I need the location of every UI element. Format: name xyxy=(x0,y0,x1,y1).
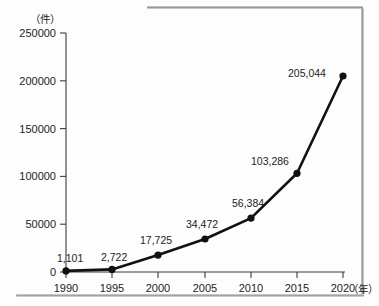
x-tick-label: 2010 xyxy=(227,283,275,294)
x-tick-label: 1990 xyxy=(42,283,90,294)
data-point-label: 34,472 xyxy=(186,219,218,230)
y-tick-label: 150000 xyxy=(6,124,56,135)
data-point-label: 17,725 xyxy=(140,235,172,246)
x-tick-label: 2005 xyxy=(181,283,229,294)
x-axis-unit-label: （年） xyxy=(348,284,378,295)
y-tick-label: 50000 xyxy=(6,219,56,230)
line-chart: （件） 250000 200000 150000 100000 50000 0 … xyxy=(0,0,379,306)
x-tick-label: 1995 xyxy=(88,283,136,294)
chart-page: （件） 250000 200000 150000 100000 50000 0 … xyxy=(0,0,379,306)
y-axis-ticks xyxy=(60,33,66,272)
x-tick-label: 2000 xyxy=(134,283,182,294)
data-point-label: 56,384 xyxy=(232,198,264,209)
data-point xyxy=(339,72,346,79)
series-markers xyxy=(62,72,346,274)
data-point-label: 205,044 xyxy=(288,68,326,79)
data-point xyxy=(201,235,208,242)
data-point xyxy=(108,266,115,273)
data-point xyxy=(154,252,161,259)
data-point-label: 1,101 xyxy=(57,253,83,264)
y-tick-label: 100000 xyxy=(6,171,56,182)
data-point xyxy=(293,170,300,177)
data-point-label: 2,722 xyxy=(101,252,127,263)
data-point xyxy=(247,215,254,222)
data-point xyxy=(62,267,69,274)
y-tick-label: 0 xyxy=(6,267,56,278)
x-tick-label: 2015 xyxy=(273,283,321,294)
y-tick-label: 250000 xyxy=(6,28,56,39)
data-point-label: 103,286 xyxy=(251,156,289,167)
x-axis-ticks xyxy=(66,272,343,278)
y-tick-label: 200000 xyxy=(6,76,56,87)
y-axis-unit-label: （件） xyxy=(30,14,60,25)
